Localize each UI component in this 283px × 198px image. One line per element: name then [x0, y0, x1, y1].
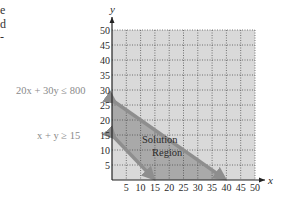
x-tick-label: 20 [164, 182, 174, 193]
y-tick-label: 20 [100, 115, 110, 126]
y-axis-arrow-icon [110, 17, 115, 23]
y-tick-label: 5 [105, 160, 110, 171]
solution-region-label-line1: Solution [142, 134, 178, 145]
x-axis-label: x [267, 174, 273, 186]
y-tick-label: 25 [100, 100, 110, 111]
solution-region-label-line2: Region [152, 147, 183, 158]
y-tick-labels: 5101520253035404550 [100, 25, 110, 171]
x-tick-label: 40 [221, 182, 231, 193]
y-tick-label: 45 [100, 40, 110, 51]
y-tick-label: 35 [100, 70, 110, 81]
x-tick-label: 10 [136, 182, 146, 193]
y-tick-label: 40 [100, 55, 110, 66]
x-tick-label: 25 [179, 182, 189, 193]
x-tick-label: 50 [250, 182, 260, 193]
constraint-label-minimum: x + y ≥ 15 [37, 130, 80, 141]
constraint-label-budget: 20x + 30y ≤ 800 [16, 85, 85, 96]
y-tick-label: 10 [100, 145, 110, 156]
x-tick-label: 5 [124, 182, 129, 193]
x-tick-label: 30 [193, 182, 203, 193]
x-tick-label: 35 [207, 182, 217, 193]
y-tick-label: 30 [100, 85, 110, 96]
y-tick-label: 50 [100, 25, 110, 36]
y-tick-label: 15 [100, 130, 110, 141]
y-axis-label: y [109, 3, 115, 15]
x-tick-labels: 5101520253035404550 [124, 182, 260, 193]
x-tick-label: 45 [236, 182, 246, 193]
linear-programming-chart: 5101520253035404550 5101520253035404550 … [0, 0, 283, 198]
x-tick-label: 15 [150, 182, 160, 193]
